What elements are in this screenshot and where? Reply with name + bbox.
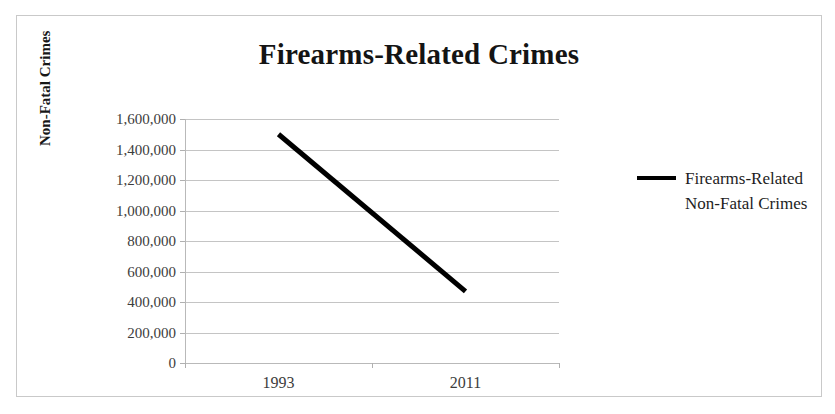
y-tick-label: 0 (169, 355, 177, 372)
series-line-firearms-related-non-fatal-crimes (185, 119, 559, 363)
x-tick-mark (185, 363, 186, 368)
plot-inner: 0200,000400,000600,000800,0001,000,0001,… (185, 119, 559, 363)
y-tick-label: 1,000,000 (116, 202, 176, 219)
x-tick-mark (559, 363, 560, 368)
y-tick-label: 600,000 (127, 263, 176, 280)
chart-legend: Firearms-Related Non-Fatal Crimes (637, 166, 812, 216)
x-tick-mark (372, 363, 373, 368)
y-tick-label: 1,200,000 (116, 172, 176, 189)
legend-line-swatch-icon (637, 176, 676, 180)
y-tick-label: 400,000 (127, 294, 176, 311)
x-tick-label-1993: 1993 (263, 374, 295, 392)
y-tick-label: 1,600,000 (116, 111, 176, 128)
y-axis-title: Non-Fatal Crimes (37, 0, 54, 146)
x-tick-label-2011: 2011 (450, 374, 481, 392)
legend-entry: Firearms-Related Non-Fatal Crimes (637, 166, 812, 216)
legend-entry-label: Firearms-Related Non-Fatal Crimes (685, 169, 807, 213)
chart-title: Firearms-Related Crimes (17, 38, 821, 71)
chart-frame: Firearms-Related Crimes Non-Fatal Crimes… (16, 15, 822, 397)
y-tick-label: 200,000 (127, 324, 176, 341)
plot-area: 0200,000400,000600,000800,0001,000,0001,… (169, 104, 559, 363)
data-line (279, 134, 466, 291)
y-tick-label: 800,000 (127, 233, 176, 250)
y-tick-label: 1,400,000 (116, 141, 176, 158)
